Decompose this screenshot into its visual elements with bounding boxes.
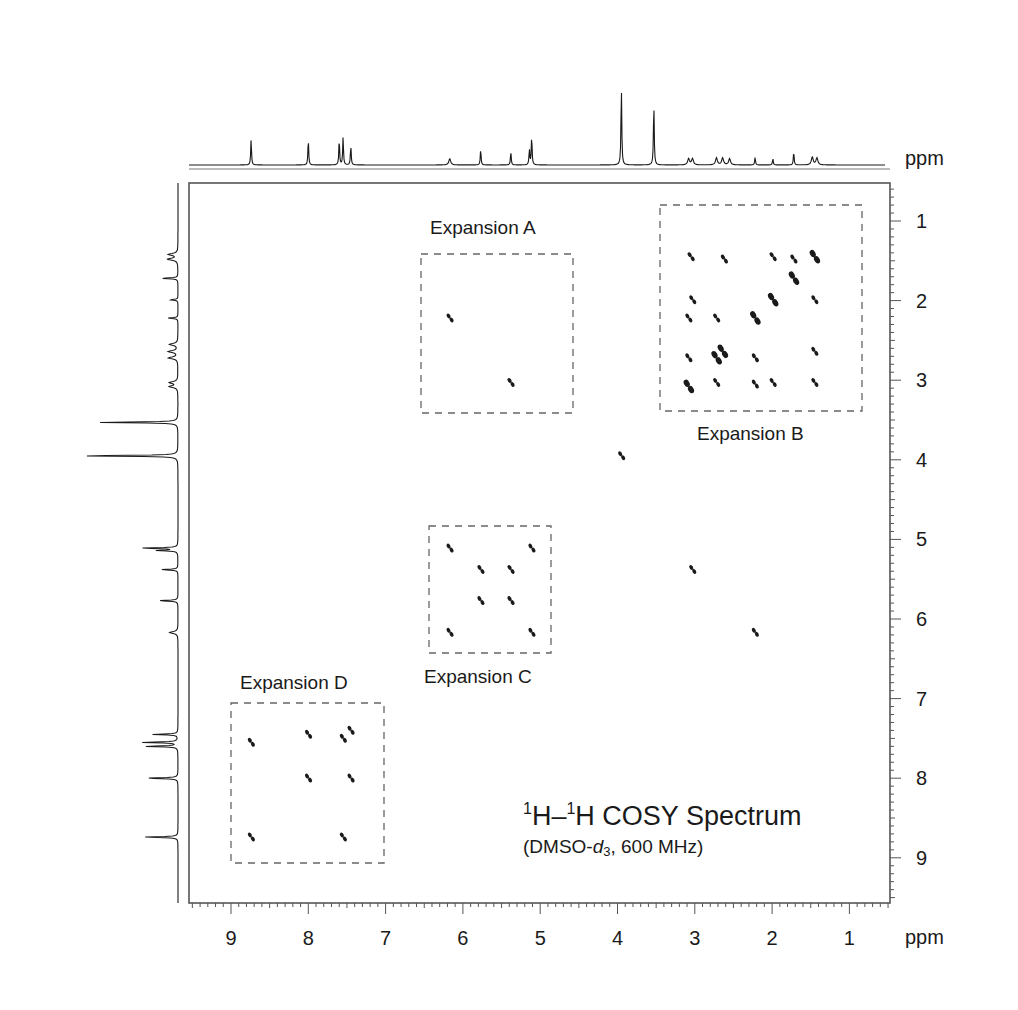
top-projection-unit-label: ppm <box>905 147 944 169</box>
y-tick-label: 4 <box>916 449 927 471</box>
plot-frame <box>189 183 890 903</box>
expansion-boxes: Expansion A Expansion B Expansion C Expa… <box>231 205 862 863</box>
cross-peaks <box>247 249 821 843</box>
subtitle-open: (DMSO- <box>523 836 593 857</box>
cross-peak <box>446 312 455 323</box>
y-tick-label: 6 <box>916 608 927 630</box>
cross-peak <box>477 595 486 606</box>
cross-peak <box>769 251 778 262</box>
x-tick-label: 6 <box>457 927 468 949</box>
cross-peak <box>749 310 762 326</box>
cross-peak <box>688 564 697 575</box>
left-1d-projection <box>87 183 178 903</box>
title-rest: COSY Spectrum <box>595 801 802 831</box>
cross-peak <box>304 729 313 740</box>
cross-peak <box>507 595 516 606</box>
cross-peak <box>788 270 801 286</box>
cross-peak <box>790 254 799 265</box>
cross-peak <box>617 450 626 461</box>
y-axis: 123456789 <box>890 189 927 897</box>
cross-peak <box>684 312 693 323</box>
cross-peak <box>339 831 348 842</box>
title-isotope-1: 1 <box>523 800 532 817</box>
cross-peak <box>751 379 760 390</box>
cross-peak <box>688 294 697 305</box>
cross-peak <box>507 564 516 575</box>
x-tick-label: 2 <box>767 927 778 949</box>
x-tick-label: 4 <box>612 927 623 949</box>
y-tick-label: 8 <box>916 767 927 789</box>
x-tick-label: 5 <box>535 927 546 949</box>
cross-peak <box>810 377 819 388</box>
x-tick-label: 9 <box>225 927 236 949</box>
y-tick-label: 9 <box>916 847 927 869</box>
y-tick-label: 7 <box>916 688 927 710</box>
cross-peak <box>810 346 819 357</box>
y-tick-label: 2 <box>916 290 927 312</box>
x-axis-unit-label: ppm <box>905 926 944 948</box>
title-element-2: H <box>575 801 595 831</box>
x-tick-label: 3 <box>689 927 700 949</box>
cross-peak <box>769 377 778 388</box>
cross-peak <box>247 831 256 842</box>
cosy-figure: 987654321 123456789 ppm ppm Expansion A … <box>0 0 1018 1010</box>
cross-peak <box>446 543 455 554</box>
cross-peak <box>716 343 729 359</box>
x-axis: 987654321 <box>192 903 888 949</box>
cross-peak <box>347 725 356 736</box>
spectrum-title: 1H–1H COSY Spectrum <box>523 800 801 832</box>
subtitle-close: , 600 MHz) <box>610 836 703 857</box>
title-element-1: H <box>532 801 552 831</box>
cross-peak <box>767 292 780 308</box>
spectrum-subtitle: (DMSO-d3, 600 MHz) <box>523 835 801 859</box>
top-projection-trace <box>189 93 885 165</box>
x-tick-label: 1 <box>844 927 855 949</box>
cross-peak <box>751 352 760 363</box>
expansion-c-label: Expansion C <box>424 666 532 687</box>
spectrum-title-block: 1H–1H COSY Spectrum (DMSO-d3, 600 MHz) <box>523 800 801 859</box>
cross-peak <box>477 564 486 575</box>
y-tick-label: 3 <box>916 369 927 391</box>
cross-peak <box>810 294 819 305</box>
cross-peak <box>684 352 693 363</box>
cross-peak <box>507 377 516 388</box>
cross-peak <box>528 627 537 638</box>
cross-peak <box>682 378 695 394</box>
cross-peak <box>304 773 313 784</box>
cross-peak <box>751 627 760 638</box>
top-1d-projection <box>189 93 885 165</box>
y-tick-label: 1 <box>916 210 927 232</box>
expansion-a-box[interactable] <box>421 254 573 413</box>
title-isotope-2: 1 <box>566 800 575 817</box>
cross-peak <box>712 312 721 323</box>
x-tick-label: 8 <box>303 927 314 949</box>
cross-peak <box>687 251 696 262</box>
expansion-b-label: Expansion B <box>697 423 804 444</box>
cross-peak <box>712 377 721 388</box>
cross-peak <box>710 350 723 366</box>
left-projection-trace <box>87 183 178 903</box>
cross-peak <box>528 543 537 554</box>
cross-peak <box>339 733 348 744</box>
x-tick-label: 7 <box>380 927 391 949</box>
cross-peak <box>446 627 455 638</box>
y-tick-label: 5 <box>916 528 927 550</box>
expansion-d-label: Expansion D <box>240 672 348 693</box>
expansion-a-label: Expansion A <box>430 217 536 238</box>
cross-peak <box>720 254 729 265</box>
title-dash: – <box>551 801 566 831</box>
cross-peak <box>808 249 821 265</box>
subtitle-d: d <box>593 836 604 857</box>
expansion-b-box[interactable] <box>660 205 862 411</box>
cross-peak <box>347 773 356 784</box>
cross-peak <box>247 737 256 748</box>
